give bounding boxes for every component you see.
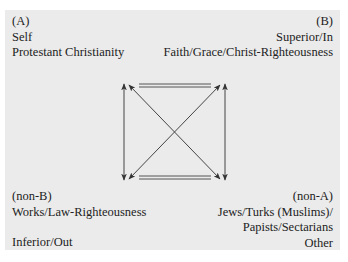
contrary-line-top [139, 84, 211, 87]
semiotic-square-arrows [0, 0, 348, 262]
contrary-line-bottom [139, 176, 211, 179]
